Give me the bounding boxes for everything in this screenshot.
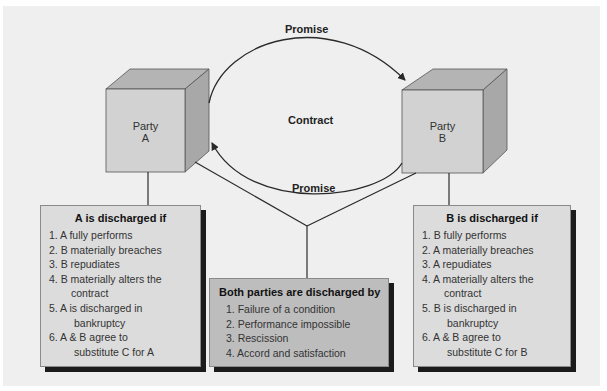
list-item: 4. B materially alters thecontract bbox=[49, 272, 200, 301]
b-discharged-title: B is discharged if bbox=[422, 212, 570, 224]
party-a-line1: Party bbox=[106, 120, 185, 132]
promise-bottom-label: Promise bbox=[292, 182, 335, 194]
both-discharged-list: 1. Failure of a condition 2. Performance… bbox=[210, 302, 388, 360]
list-item: 3. B repudiates bbox=[49, 257, 200, 272]
list-item: 5. A is discharged inbankruptcy bbox=[49, 301, 200, 330]
party-b-line1: Party bbox=[402, 120, 483, 132]
both-discharged-title: Both parties are discharged by bbox=[219, 286, 388, 298]
a-discharged-title: A is discharged if bbox=[49, 212, 200, 224]
party-a-line2: A bbox=[106, 132, 185, 144]
list-item: 1. B fully performs bbox=[422, 228, 570, 243]
a-discharged-list: 1. A fully performs 2. B materially brea… bbox=[49, 228, 200, 359]
both-discharged-box: Both parties are discharged by 1. Failur… bbox=[209, 278, 389, 367]
connector-b-center bbox=[307, 173, 416, 226]
list-item: 5. B is discharged inbankruptcy bbox=[422, 301, 570, 330]
list-item: 4. A materially alters thecontract bbox=[422, 272, 570, 301]
contract-label: Contract bbox=[288, 114, 333, 126]
list-item: 1. Failure of a condition bbox=[226, 302, 388, 317]
list-item: 2. Performance impossible bbox=[226, 317, 388, 332]
party-b-label: Party B bbox=[402, 120, 483, 144]
b-discharged-list: 1. B fully performs 2. A materially brea… bbox=[422, 228, 570, 359]
list-item: 2. A materially breaches bbox=[422, 243, 570, 258]
list-item: 6. A & B agree tosubstitute C for B bbox=[422, 330, 570, 359]
party-a-label: Party A bbox=[106, 120, 185, 144]
promise-arrow-a-to-b bbox=[209, 38, 405, 103]
list-item: 6. A & B agree tosubstitute C for A bbox=[49, 330, 200, 359]
party-b-line2: B bbox=[402, 132, 483, 144]
list-item: 3. Rescission bbox=[226, 331, 388, 346]
a-discharged-box: A is discharged if 1. A fully performs 2… bbox=[40, 205, 201, 367]
list-item: 4. Accord and satisfaction bbox=[226, 346, 388, 361]
b-discharged-box: B is discharged if 1. B fully performs 2… bbox=[413, 205, 571, 367]
list-item: 1. A fully performs bbox=[49, 228, 200, 243]
connector-a-center bbox=[195, 162, 307, 226]
promise-top-label: Promise bbox=[285, 23, 328, 35]
list-item: 2. B materially breaches bbox=[49, 243, 200, 258]
list-item: 3. A repudiates bbox=[422, 257, 570, 272]
